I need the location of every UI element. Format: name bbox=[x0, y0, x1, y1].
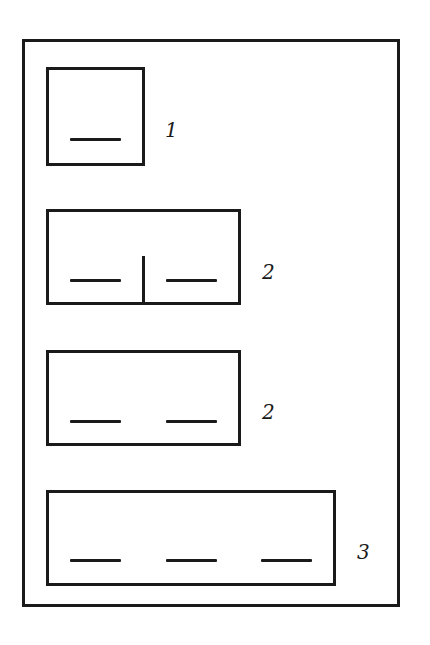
box-label: 1 bbox=[165, 120, 178, 140]
blank-dash bbox=[70, 559, 121, 562]
blank-dash bbox=[261, 559, 312, 562]
blank-dash bbox=[166, 559, 217, 562]
box-divider bbox=[142, 256, 145, 303]
blank-dash bbox=[166, 279, 217, 282]
blank-dash bbox=[70, 420, 121, 423]
blank-dash bbox=[70, 279, 121, 282]
box-label: 3 bbox=[357, 542, 370, 562]
box-three-blanks bbox=[46, 490, 336, 586]
blank-dash bbox=[166, 420, 217, 423]
box-one-blank bbox=[46, 67, 145, 166]
box-label: 2 bbox=[262, 262, 275, 282]
box-two-blanks bbox=[46, 350, 241, 446]
blank-dash bbox=[70, 138, 121, 141]
box-label: 2 bbox=[262, 402, 275, 422]
